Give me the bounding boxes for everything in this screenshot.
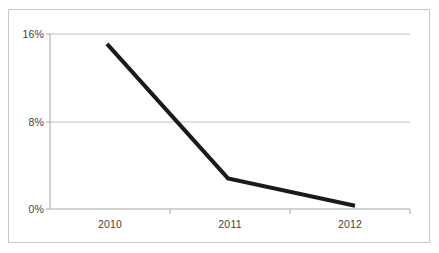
y-tick-label-8: 8%	[4, 116, 44, 128]
y-tick-label-0: 0%	[4, 203, 44, 215]
y-tick-label-16: 16%	[4, 28, 44, 40]
x-tick-label-2011: 2011	[200, 218, 260, 230]
x-tick-label-2012: 2012	[320, 218, 380, 230]
line-chart-plot	[0, 0, 439, 253]
x-tick-label-2010: 2010	[80, 218, 140, 230]
data-series-line	[107, 44, 355, 206]
